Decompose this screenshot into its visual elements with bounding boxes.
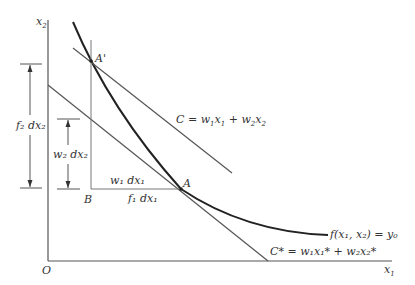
isoquant-curve	[73, 22, 328, 235]
isocost-upper-plus: + w	[225, 113, 251, 126]
arrow-down-icon	[66, 181, 71, 188]
diagram-graphics	[0, 0, 415, 285]
point-A-prime	[89, 59, 93, 63]
arrow-up-icon	[66, 120, 71, 127]
origin-label: O	[42, 265, 51, 276]
isocost-lower-label: C* = w₁x₁* + w₂x₂*	[270, 246, 376, 257]
isocost-upper-label: C = w1x1 + w2x2	[176, 114, 266, 128]
arrow-up-icon	[28, 65, 33, 72]
y-axis-sub: 2	[42, 22, 46, 30]
x-axis-sub: 1	[390, 270, 394, 278]
w2dx2-label: w₂ dx₂	[53, 149, 88, 160]
diagram-canvas: x2 x1 O A' A B C = w1x1 + w2x2 C* = w₁x₁…	[0, 0, 415, 285]
w1dx1-label: w₁ dx₁	[110, 175, 145, 186]
y-axis-label: x2	[36, 16, 47, 30]
isocost-line-lower	[48, 85, 268, 261]
point-A-prime-label: A'	[95, 53, 106, 64]
isocost-upper-sub4: 2	[262, 120, 266, 128]
point-B-label: B	[84, 194, 92, 205]
point-A-label: A	[183, 178, 191, 189]
x-axis-label: x1	[384, 264, 395, 278]
arrow-down-icon	[28, 180, 33, 187]
f1dx1-label: f₁ dx₁	[128, 193, 158, 204]
isocost-upper-lhs: C = w	[176, 113, 210, 126]
f2dx2-label: f₂ dx₂	[16, 120, 46, 131]
isoquant-label: f(x₁, x₂) = y₀	[330, 229, 398, 240]
